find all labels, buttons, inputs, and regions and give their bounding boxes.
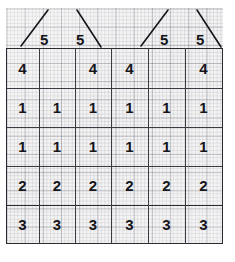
table-cell: 1: [6, 127, 39, 166]
table-cell: 2: [39, 166, 75, 205]
descending-slash-icon: [68, 8, 114, 49]
table-cell: 1: [148, 127, 185, 166]
table-cell: 1: [185, 127, 222, 166]
table-cell: 1: [75, 127, 111, 166]
table-cell: 3: [148, 205, 185, 243]
five-label: 5: [160, 31, 168, 48]
screenshot-root: 5 5 5 5: [0, 0, 235, 262]
five-annotation-band: 5 5 5 5: [6, 8, 223, 49]
table-cell: 1: [185, 88, 222, 127]
table-cell: 1: [111, 127, 148, 166]
table-cell: 3: [39, 205, 75, 243]
table-cell: 1: [148, 88, 185, 127]
table-cell: [148, 48, 185, 88]
table-cell: 2: [75, 166, 111, 205]
five-label: 5: [76, 31, 84, 48]
table-cell: 1: [39, 88, 75, 127]
five-label: 5: [40, 31, 48, 48]
descending-slash-icon: [188, 8, 234, 49]
table-cell: 3: [185, 205, 222, 243]
five-mark-2: 5: [68, 8, 114, 49]
table-cell: [39, 48, 75, 88]
table-cell: 1: [39, 127, 75, 166]
five-mark-4: 5: [188, 8, 234, 49]
table-cell: 1: [111, 88, 148, 127]
table-cell: 2: [185, 166, 222, 205]
five-label: 5: [196, 31, 204, 48]
table-cell: 4: [185, 48, 222, 88]
five-mark-1: 5: [18, 8, 64, 49]
hand-drawn-table: 4 4 4 4 1 1 1 1 1 1 1 1 1 1 1 1 2 2 2 2 …: [6, 48, 223, 244]
table-cell: 3: [75, 205, 111, 243]
table-cell: 4: [75, 48, 111, 88]
table-cell: 2: [148, 166, 185, 205]
table-cell: 1: [6, 88, 39, 127]
table-cell: 4: [111, 48, 148, 88]
table-cell: 4: [6, 48, 39, 88]
table-rule-vertical: [222, 48, 223, 244]
table-cell: 1: [75, 88, 111, 127]
table-cell: 3: [111, 205, 148, 243]
table-cell: 2: [6, 166, 39, 205]
table-cell: 2: [111, 166, 148, 205]
table-cell: 3: [6, 205, 39, 243]
five-mark-3: 5: [138, 8, 184, 49]
